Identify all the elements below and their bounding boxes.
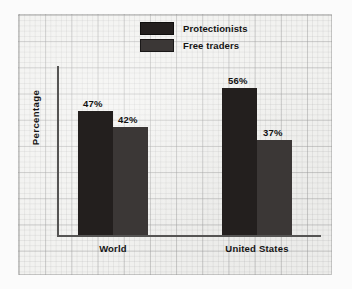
y-axis-line [57, 66, 59, 236]
bar-united-states-free-traders [257, 140, 292, 235]
legend-item-free-traders: Free traders [140, 39, 248, 52]
x-axis-line [57, 235, 321, 237]
legend-swatch-free-traders [140, 39, 174, 52]
bar-united-states-protectionists [222, 88, 257, 235]
bar-value-world-free-traders: 42% [118, 114, 138, 125]
chart-legend: Protectionists Free traders [140, 22, 248, 52]
legend-label-free-traders: Free traders [183, 40, 239, 51]
bar-value-united-states-free-traders: 37% [263, 127, 283, 138]
legend-swatch-protectionists [140, 22, 174, 35]
bar-chart: Protectionists Free traders Percentage 4… [0, 0, 352, 289]
legend-label-protectionists: Protectionists [183, 23, 248, 34]
x-axis-group-label-world: World [78, 243, 148, 254]
y-axis-title: Percentage [30, 78, 41, 158]
bar-value-world-protectionists: 47% [83, 98, 103, 109]
bar-world-free-traders [113, 127, 148, 235]
bar-world-protectionists [78, 111, 113, 235]
bar-value-united-states-protectionists: 56% [228, 75, 248, 86]
legend-item-protectionists: Protectionists [140, 22, 248, 35]
x-axis-group-label-united-states: United States [212, 243, 302, 254]
